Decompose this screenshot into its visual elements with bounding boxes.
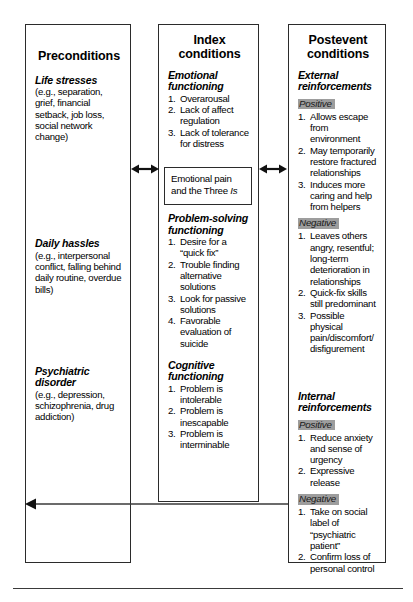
list-item-text: Desire for a “quick fix” bbox=[180, 236, 227, 258]
list-item-text: Trouble finding alternative solutions bbox=[180, 259, 239, 293]
list-item: 3.Look for passive solutions bbox=[168, 293, 251, 316]
column-preconditions: Preconditions Life stresses (e.g., separ… bbox=[25, 24, 131, 563]
inner-box-line2-prefix: and the Three bbox=[171, 185, 230, 196]
list-number: 1. bbox=[168, 236, 176, 247]
list-number: 2. bbox=[168, 405, 176, 416]
list-item-text: Look for passive solutions bbox=[180, 293, 246, 315]
list-number: 4. bbox=[168, 315, 176, 326]
list-item: 4.Favorable evaluation of suicide bbox=[168, 315, 251, 349]
list-emotional-functioning: 1.Overarousal 2.Lack of affect regulatio… bbox=[168, 93, 251, 149]
section-heading-emotional-functioning: Emotional functioning bbox=[168, 70, 251, 93]
list-number: 3. bbox=[298, 179, 306, 190]
list-item: 1.Problem is intolerable bbox=[168, 383, 251, 406]
section-life-stresses: Life stresses (e.g., separation, grief, … bbox=[35, 75, 123, 143]
bidirectional-arrow-preconditions-index bbox=[131, 160, 159, 178]
list-item: 2.Problem is inescapable bbox=[168, 405, 251, 428]
list-cognitive-functioning: 1.Problem is intolerable 2.Problem is in… bbox=[168, 383, 251, 451]
section-body-daily-hassles: (e.g., interpersonal conflict, falling b… bbox=[35, 250, 123, 295]
list-item-text: Allows escape from environment bbox=[310, 111, 368, 145]
list-number: 2. bbox=[298, 551, 306, 562]
list-item-text: Problem is intolerable bbox=[180, 383, 223, 405]
section-emotional-functioning: Emotional functioning 1.Overarousal 2.La… bbox=[168, 70, 251, 149]
list-item-text: May temporarily restore fractured relati… bbox=[310, 145, 376, 179]
section-problem-solving-functioning: Problem-solving functioning 1.Desire for… bbox=[168, 213, 251, 349]
list-number: 3. bbox=[298, 310, 306, 321]
list-item: 3.Problem is interminable bbox=[168, 428, 251, 451]
section-heading-psychiatric-disorder: Psychiatric disorder bbox=[35, 366, 123, 389]
list-internal-negative: 1.Take on social label of “psychiatric p… bbox=[298, 506, 378, 574]
list-number: 3. bbox=[168, 127, 176, 138]
list-item: 1.Reduce anxiety and sense of urgency bbox=[298, 432, 378, 466]
list-item-text: Induces more caring and help from helper… bbox=[310, 179, 372, 213]
list-number: 3. bbox=[168, 428, 176, 439]
column-postevent-conditions: Postevent conditions External reinforcem… bbox=[288, 24, 386, 563]
list-item-text: Confirm loss of personal control bbox=[310, 551, 374, 573]
list-item-text: Quick-fix skills still predominant bbox=[310, 287, 376, 309]
section-heading-daily-hassles: Daily hassles bbox=[35, 238, 123, 249]
list-item: 3.Possible physical pain/discomfort/ dis… bbox=[298, 310, 378, 355]
list-item-text: Problem is interminable bbox=[180, 428, 229, 450]
label-internal-positive: Positive bbox=[298, 420, 335, 431]
list-internal-positive: 1.Reduce anxiety and sense of urgency 2.… bbox=[298, 432, 378, 488]
list-item: 2.Quick-fix skills still predominant bbox=[298, 287, 378, 310]
list-number: 1. bbox=[298, 111, 306, 122]
list-item: 3.Lack of tolerance for distress bbox=[168, 127, 251, 150]
bidirectional-arrow-index-postevent bbox=[259, 160, 287, 178]
section-internal-reinforcements: Internal reinforcements Positive 1.Reduc… bbox=[298, 391, 378, 574]
list-number: 2. bbox=[298, 465, 306, 476]
section-cognitive-functioning: Cognitive functioning 1.Problem is intol… bbox=[168, 360, 251, 451]
column-title-preconditions: Preconditions bbox=[35, 50, 123, 64]
list-number: 1. bbox=[298, 230, 306, 241]
list-item: 2.Expressive release bbox=[298, 465, 378, 488]
inner-box-line2-italic: Is bbox=[230, 185, 237, 196]
section-heading-external-reinforcements: External reinforcements bbox=[298, 70, 378, 93]
list-item-text: Favorable evaluation of suicide bbox=[180, 315, 231, 349]
list-item: 2.Lack of affect regulation bbox=[168, 104, 251, 127]
feedback-arrow-postevent-to-preconditions bbox=[25, 495, 288, 513]
list-problem-solving-functioning: 1.Desire for a “quick fix” 2.Trouble fin… bbox=[168, 236, 251, 349]
list-number: 3. bbox=[168, 293, 176, 304]
list-item: 1.Leaves others angry, resentful; long-t… bbox=[298, 230, 378, 286]
list-item: 1.Overarousal bbox=[168, 93, 251, 104]
section-heading-life-stresses: Life stresses bbox=[35, 75, 123, 86]
section-body-life-stresses: (e.g., separation, grief, financial setb… bbox=[35, 86, 123, 142]
diagram-canvas: Preconditions Life stresses (e.g., separ… bbox=[0, 0, 413, 602]
section-body-psychiatric-disorder: (e.g., depression, schizophrenia, drug a… bbox=[35, 389, 123, 423]
list-item: 2.Confirm loss of personal control bbox=[298, 551, 378, 574]
list-item-text: Take on social label of “psychiatric pat… bbox=[310, 506, 367, 551]
section-heading-cognitive-functioning: Cognitive functioning bbox=[168, 360, 251, 383]
section-heading-problem-solving-functioning: Problem-solving functioning bbox=[168, 213, 251, 236]
bottom-divider-rule bbox=[13, 588, 403, 589]
list-number: 2. bbox=[168, 104, 176, 115]
list-item: 2.May temporarily restore fractured rela… bbox=[298, 145, 378, 179]
list-item: 2.Trouble finding alternative solutions bbox=[168, 259, 251, 293]
list-item-text: Problem is inescapable bbox=[180, 405, 228, 427]
column-index-conditions: Index conditions Emotional functioning 1… bbox=[158, 24, 259, 502]
list-external-positive: 1.Allows escape from environment 2.May t… bbox=[298, 111, 378, 213]
list-number: 1. bbox=[298, 432, 306, 443]
list-item: 1.Allows escape from environment bbox=[298, 111, 378, 145]
list-number: 1. bbox=[168, 383, 176, 394]
list-number: 2. bbox=[298, 287, 306, 298]
list-item-text: Expressive release bbox=[310, 465, 354, 487]
column-title-postevent-conditions: Postevent conditions bbox=[298, 34, 378, 61]
label-internal-negative: Negative bbox=[298, 494, 339, 505]
inner-box-line1: Emotional pain bbox=[171, 173, 232, 184]
column-title-index-conditions: Index conditions bbox=[168, 34, 251, 61]
section-daily-hassles: Daily hassles (e.g., interpersonal confl… bbox=[35, 238, 123, 295]
list-item-text: Lack of affect regulation bbox=[180, 104, 233, 126]
list-external-negative: 1.Leaves others angry, resentful; long-t… bbox=[298, 230, 378, 354]
section-heading-internal-reinforcements: Internal reinforcements bbox=[298, 391, 378, 414]
section-psychiatric-disorder: Psychiatric disorder (e.g., depression, … bbox=[35, 366, 123, 423]
list-number: 2. bbox=[168, 259, 176, 270]
inner-box-emotional-pain: Emotional pain and the Three Is bbox=[164, 167, 252, 205]
list-number: 2. bbox=[298, 145, 306, 156]
list-number: 1. bbox=[168, 93, 176, 104]
list-item-text: Leaves others angry, resentful; long-ter… bbox=[310, 230, 374, 286]
list-item-text: Lack of tolerance for distress bbox=[180, 127, 249, 149]
section-external-reinforcements: External reinforcements Positive 1.Allow… bbox=[298, 70, 378, 355]
label-external-positive: Positive bbox=[298, 99, 335, 110]
list-number: 1. bbox=[298, 506, 306, 517]
list-item-text: Overarousal bbox=[180, 93, 230, 104]
list-item: 1.Desire for a “quick fix” bbox=[168, 236, 251, 259]
